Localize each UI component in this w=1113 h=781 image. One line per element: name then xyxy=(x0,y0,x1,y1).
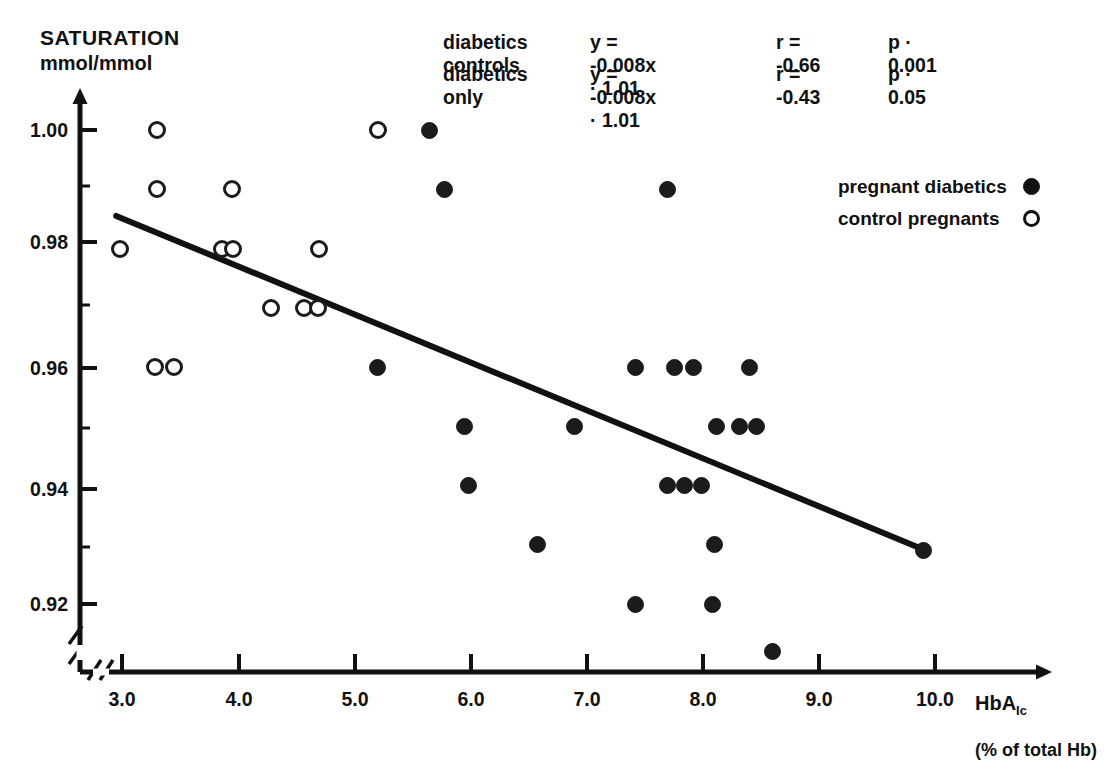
x-tick-label: 9.0 xyxy=(789,688,849,711)
annotation-correlation: r = -0.43 xyxy=(776,63,820,109)
data-point-pregnant-diabetic xyxy=(706,536,723,553)
x-axis-title: HbAIc xyxy=(975,692,1027,718)
y-axis-title-line1: SATURATION xyxy=(40,26,180,50)
data-point-pregnant-diabetic xyxy=(456,418,473,435)
data-point-pregnant-diabetic xyxy=(436,181,453,198)
data-point-pregnant-diabetic xyxy=(731,418,748,435)
legend-item-pregnant-diabetics: pregnant diabetics xyxy=(838,176,1007,198)
regression-line xyxy=(116,216,923,550)
x-axis-title-subscript: Ic xyxy=(1016,703,1027,718)
data-point-control-pregnant xyxy=(262,299,280,317)
data-point-pregnant-diabetic xyxy=(460,477,477,494)
data-point-control-pregnant xyxy=(148,121,166,139)
legend-label: control pregnants xyxy=(838,208,1000,229)
y-axis xyxy=(69,88,88,672)
plot-canvas xyxy=(0,0,1113,781)
x-axis-units: (% of total Hb) xyxy=(975,740,1097,761)
data-point-pregnant-diabetic xyxy=(693,477,710,494)
x-axis-title-text: HbA xyxy=(975,692,1016,714)
data-point-pregnant-diabetic xyxy=(764,643,781,660)
x-tick-label: 3.0 xyxy=(92,688,152,711)
open-circle-icon xyxy=(1023,210,1040,227)
y-tick-label: 0.98 xyxy=(0,231,68,254)
data-point-pregnant-diabetic xyxy=(627,359,644,376)
x-tick-label: 8.0 xyxy=(673,688,733,711)
data-point-pregnant-diabetic xyxy=(369,359,386,376)
data-point-pregnant-diabetic xyxy=(659,181,676,198)
x-axis xyxy=(80,660,1052,680)
data-point-control-pregnant xyxy=(146,358,164,376)
x-tick-label: 10.0 xyxy=(905,688,965,711)
annotation-equation: y = -0.008x · 1.01 xyxy=(590,63,656,132)
x-tick-label: 5.0 xyxy=(325,688,385,711)
annotation-pvalue: p · 0.05 xyxy=(888,63,926,109)
data-point-control-pregnant xyxy=(310,240,328,258)
data-point-pregnant-diabetic xyxy=(421,122,438,139)
filled-circle-icon xyxy=(1023,178,1040,195)
legend-label: pregnant diabetics xyxy=(838,176,1007,197)
data-point-pregnant-diabetic xyxy=(676,477,693,494)
y-tick-label: 0.94 xyxy=(0,478,68,501)
x-tick-label: 7.0 xyxy=(557,688,617,711)
data-point-pregnant-diabetic xyxy=(748,418,765,435)
data-point-pregnant-diabetic xyxy=(708,418,725,435)
data-point-pregnant-diabetic xyxy=(685,359,702,376)
y-major-ticks xyxy=(80,130,97,604)
y-axis-title-line2: mmol/mmol xyxy=(40,52,152,75)
scatter-plot-figure: SATURATION mmol/mmol diabetics controls … xyxy=(0,0,1113,781)
x-major-ticks xyxy=(122,654,935,672)
data-point-control-pregnant xyxy=(309,299,327,317)
data-point-control-pregnant xyxy=(148,180,166,198)
data-point-control-pregnant xyxy=(111,240,129,258)
x-tick-label: 6.0 xyxy=(441,688,501,711)
legend-item-control-pregnants: control pregnants xyxy=(838,208,1000,230)
data-point-pregnant-diabetic xyxy=(666,359,683,376)
y-tick-label: 0.96 xyxy=(0,357,68,380)
data-point-pregnant-diabetic xyxy=(915,542,932,559)
data-point-pregnant-diabetic xyxy=(627,596,644,613)
y-tick-label: 0.92 xyxy=(0,593,68,616)
data-point-pregnant-diabetic xyxy=(741,359,758,376)
y-tick-label: 1.00 xyxy=(0,119,68,142)
data-point-control-pregnant xyxy=(224,240,242,258)
data-point-control-pregnant xyxy=(369,121,387,139)
data-point-pregnant-diabetic xyxy=(704,596,721,613)
annotation-group-label: diabetics only xyxy=(443,63,528,109)
x-tick-label: 4.0 xyxy=(209,688,269,711)
